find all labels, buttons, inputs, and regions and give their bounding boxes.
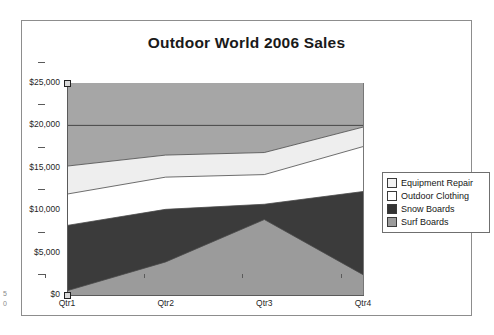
y-axis-tick [38, 232, 45, 233]
x-axis-tick-label: Qtr2 [146, 298, 186, 308]
x-axis-line [67, 295, 364, 296]
x-axis-tick-label: Qtr1 [47, 298, 87, 308]
y-axis-tick [38, 147, 45, 148]
y-axis-tick-label: $25,000 [16, 78, 60, 87]
y-axis-line [67, 83, 68, 296]
legend-swatch-icon [387, 178, 397, 188]
chart-frame: Outdoor World 2006 Sales $0$5,000$10,000… [21, 20, 472, 316]
legend-swatch-icon [387, 191, 397, 201]
legend-item-label: Outdoor Clothing [401, 190, 469, 202]
page-margin-mark-1: 5 [3, 290, 7, 298]
legend-item-label: Equipment Repair [401, 177, 473, 189]
plot-region [67, 83, 363, 295]
legend-swatch-icon [387, 204, 397, 214]
x-axis-tick-label: Qtr3 [244, 298, 284, 308]
x-axis-tick [341, 274, 342, 278]
stacked-area-series [67, 83, 363, 295]
chart-title: Outdoor World 2006 Sales [22, 34, 471, 52]
y-axis-tick [38, 189, 45, 190]
legend-item-label: Surf Boards [401, 216, 449, 228]
y-axis-tick-label: $15,000 [16, 163, 60, 172]
legend-item-surf-boards[interactable]: Surf Boards [387, 215, 485, 228]
legend-item-snow-boards[interactable]: Snow Boards [387, 202, 485, 215]
x-axis-tick [45, 274, 46, 278]
y-axis-labels: $0$5,000$10,000$15,000$20,000$25,000 [22, 21, 60, 335]
y-axis-tick-label: $10,000 [16, 205, 60, 214]
x-axis-tick-label: Qtr4 [343, 298, 383, 308]
y-axis-tick-label: $5,000 [16, 248, 60, 257]
y-axis-tick [38, 274, 45, 275]
x-axis-tick [144, 274, 145, 278]
legend-item-equipment-repair[interactable]: Equipment Repair [387, 176, 485, 189]
page-canvas: 5 0 Outdoor World 2006 Sales $0$5,000$10… [0, 0, 494, 335]
page-margin-mark-2: 0 [3, 300, 7, 308]
legend-item-outdoor-clothing[interactable]: Outdoor Clothing [387, 189, 485, 202]
y-axis-tick-label: $20,000 [16, 120, 60, 129]
y-axis-tick [38, 104, 45, 105]
y-axis-tick [38, 62, 45, 63]
chart-legend[interactable]: Equipment RepairOutdoor ClothingSnow Boa… [382, 172, 490, 233]
y-axis-top-endcap [64, 80, 71, 87]
legend-item-label: Snow Boards [401, 203, 455, 215]
x-axis-tick [242, 274, 243, 278]
legend-swatch-icon [387, 217, 397, 227]
